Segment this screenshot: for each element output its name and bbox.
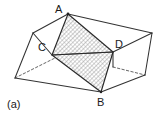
panel-label: (a) (7, 99, 20, 110)
vertex-label-d: D (115, 39, 123, 50)
parallelepiped-diagram (0, 0, 160, 118)
vertex-dot-B (100, 91, 102, 93)
vertex-label-c: C (38, 42, 46, 53)
vertex-label-b: B (97, 97, 104, 108)
vertex-label-a: A (55, 4, 62, 15)
figure-panel: A C D B (a) (0, 0, 160, 118)
vertex-dot-A (67, 13, 70, 16)
